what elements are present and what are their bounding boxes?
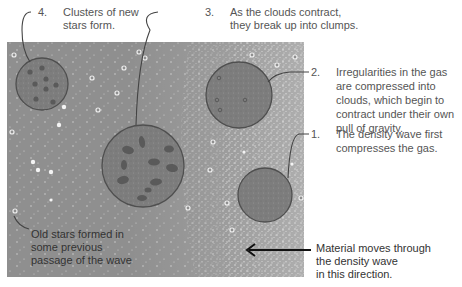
step-text-line: contract under their own — [336, 108, 454, 121]
step-number: 2. — [311, 66, 320, 79]
material-line: in this direction. — [316, 268, 431, 281]
cloud-clumps — [102, 125, 184, 207]
step-text-line: Clusters of new — [63, 6, 139, 19]
step-text-line: are compressed into — [336, 80, 436, 93]
step-text-line: they break up into clumps. — [230, 19, 358, 32]
material-line: the density wave — [316, 255, 431, 268]
old-stars-line: some previous — [31, 241, 132, 254]
step-text-line: stars form. — [63, 19, 115, 32]
cloud-initial — [238, 168, 292, 222]
step-text-line: compresses the gas. — [336, 142, 438, 155]
step-number: 1. — [311, 128, 320, 141]
label-old-stars: Old stars formed in some previous passag… — [31, 228, 132, 267]
label-material-direction: Material moves through the density wave … — [316, 242, 431, 281]
step-number: 4. — [38, 6, 47, 19]
cloud-clusters — [16, 58, 68, 110]
step-text-line: Irregularities in the gas — [336, 66, 447, 79]
old-stars-line: Old stars formed in — [31, 228, 132, 241]
material-line: Material moves through — [316, 242, 431, 255]
cloud-compressed — [206, 62, 272, 128]
step-text-line: As the clouds contract, — [230, 6, 341, 19]
step-text-line: The density wave first — [336, 128, 442, 141]
old-stars-line: passage of the wave — [31, 254, 132, 267]
step-number: 3. — [205, 6, 214, 19]
step-text-line: clouds, which begin to — [336, 94, 444, 107]
